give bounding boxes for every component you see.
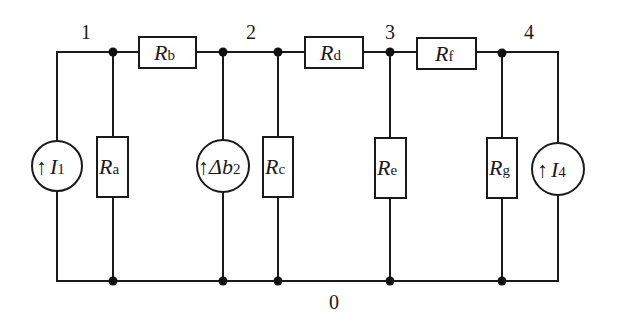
re-main: R	[376, 155, 391, 180]
db2-main: Δb	[208, 154, 233, 179]
resistor-rf: Rf	[417, 38, 476, 69]
resistor-ra: Ra	[97, 137, 128, 197]
node-label-0: 0	[329, 291, 339, 313]
circuit-diagram: Rb Rd Rf Ra Rc Re Rg ↑I1 ↑Δb2	[0, 0, 619, 328]
rg-main: R	[488, 155, 503, 180]
node-label-4: 4	[524, 21, 534, 43]
rb-sub: b	[167, 47, 175, 63]
arrow-up-icon: ↑	[198, 154, 209, 179]
rc-main: R	[264, 154, 279, 179]
source-delta-b2: ↑Δb2	[197, 140, 249, 192]
node-label-1: 1	[81, 21, 91, 43]
ra-main: R	[98, 154, 113, 179]
resistor-rb: Rb	[139, 37, 196, 68]
junction-dots	[109, 48, 507, 286]
re-sub: e	[390, 162, 397, 178]
db2-sub: 2	[233, 161, 241, 177]
rd-sub: d	[333, 47, 341, 63]
i4-sub: 4	[558, 164, 566, 180]
rg-sub: g	[502, 162, 510, 178]
i1-sub: 1	[57, 161, 65, 177]
arrow-up-icon: ↑	[36, 154, 47, 179]
resistor-rd: Rd	[305, 37, 363, 68]
node-label-3: 3	[385, 21, 395, 43]
rc-sub: c	[278, 161, 285, 177]
current-source-i4: ↑I4	[532, 143, 584, 195]
rf-sub: f	[448, 48, 453, 64]
ground-wire	[57, 191, 558, 281]
current-source-i1: ↑I1	[32, 141, 82, 191]
resistor-re: Re	[375, 138, 406, 198]
resistor-rc: Rc	[263, 137, 293, 197]
node-label-2: 2	[246, 21, 256, 43]
rf-main: R	[434, 41, 449, 66]
resistor-rg: Rg	[487, 138, 517, 198]
arrow-up-icon: ↑	[537, 157, 548, 182]
branch-wires	[113, 52, 502, 281]
rd-main: R	[319, 40, 334, 65]
ra-sub: a	[112, 161, 119, 177]
rb-main: R	[153, 40, 168, 65]
